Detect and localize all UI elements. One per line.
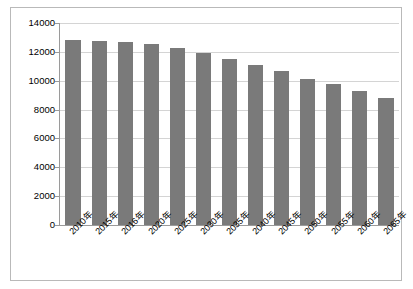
bar — [92, 41, 107, 225]
plot-area — [59, 23, 399, 225]
y-axis-tick-label: 14000 — [29, 18, 55, 27]
bar — [170, 48, 185, 225]
y-axis-labels: 02000400060008000100001200014000 — [11, 8, 55, 280]
y-axis-tick-label: 8000 — [34, 105, 55, 114]
y-axis-tick-label: 10000 — [29, 76, 55, 85]
y-axis-tick-label: 2000 — [34, 191, 55, 200]
bar-slot — [112, 23, 138, 225]
x-axis-labels: 2010年2015年2016年2020年2025年2030年2035年2040年… — [59, 226, 399, 282]
bar — [248, 65, 263, 225]
bar — [378, 98, 393, 225]
y-axis-tick-label: 12000 — [29, 47, 55, 56]
bar — [118, 42, 133, 225]
bar-series — [60, 23, 399, 225]
bar — [274, 71, 289, 225]
bar-slot — [269, 23, 295, 225]
bar-slot — [295, 23, 321, 225]
y-axis-tick-label: 6000 — [34, 133, 55, 142]
bar-slot — [164, 23, 190, 225]
bar-slot — [321, 23, 347, 225]
bar — [144, 44, 159, 225]
bar — [65, 40, 80, 225]
y-axis-tick-label: 4000 — [34, 162, 55, 171]
bar — [222, 59, 237, 225]
bar — [300, 79, 315, 225]
bar-slot — [60, 23, 86, 225]
bar-slot — [216, 23, 242, 225]
bar — [326, 84, 341, 225]
bar-slot — [190, 23, 216, 225]
bar — [196, 53, 211, 225]
bar-slot — [138, 23, 164, 225]
bar-slot — [373, 23, 399, 225]
bar-slot — [86, 23, 112, 225]
chart-frame: 02000400060008000100001200014000 2010年20… — [10, 7, 402, 281]
bar — [352, 91, 367, 225]
bar-slot — [347, 23, 373, 225]
bar-slot — [243, 23, 269, 225]
